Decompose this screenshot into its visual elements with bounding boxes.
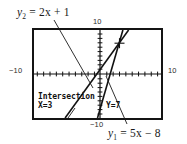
figure-root: y2 = 2x + 1 y1 = 5x − 8 10 −10 10 −10: [0, 0, 187, 144]
equation-label-y1-rest: = 5x − 8: [117, 127, 161, 139]
intersection-readout-title: Intersection: [38, 92, 95, 101]
intersection-readout-y: Y=7: [106, 101, 120, 110]
equation-label-y1: y1 = 5x − 8: [108, 127, 161, 142]
intersection-readout-x: X=3: [38, 101, 52, 110]
equation-label-y2: y2 = 2x + 1: [17, 6, 70, 21]
axis-label-left: −10: [9, 66, 22, 75]
axis-label-top: 10: [93, 17, 102, 26]
calculator-screen: Intersection X=3 Y=7: [32, 28, 163, 120]
axis-label-bottom: −10: [90, 120, 103, 129]
graph-plot-area: [34, 30, 161, 118]
equation-label-y2-rest: = 2x + 1: [26, 6, 70, 18]
axis-label-right: 10: [168, 66, 177, 75]
